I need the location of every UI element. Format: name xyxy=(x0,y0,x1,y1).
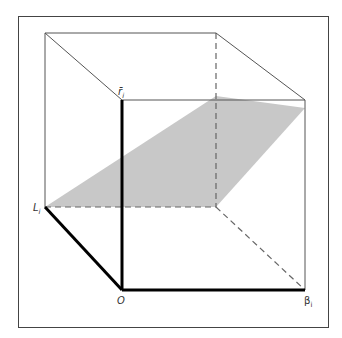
label-r-bar: r̄i xyxy=(118,87,124,100)
shaded-plane xyxy=(45,96,305,207)
top-left-diagonal xyxy=(45,33,122,100)
back-diagonal-edge xyxy=(216,207,305,290)
cube-diagram xyxy=(0,0,342,338)
top-right-diagonal xyxy=(216,33,305,100)
label-beta: βi xyxy=(304,296,312,309)
label-L: Li xyxy=(33,203,41,216)
depth-axis xyxy=(45,207,122,290)
label-origin: O xyxy=(117,296,125,306)
